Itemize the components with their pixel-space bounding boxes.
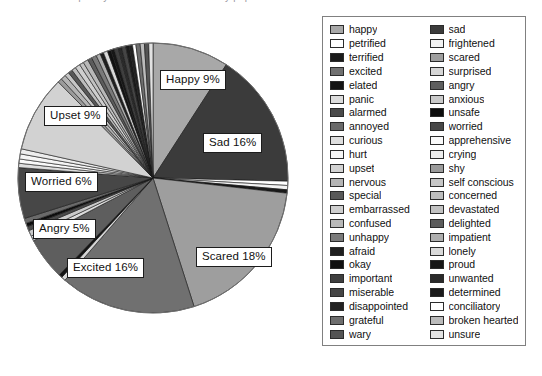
legend-item[interactable]: unhappy (330, 230, 422, 244)
legend-item[interactable]: unsafe (430, 106, 522, 120)
legend-item[interactable]: nervous (330, 175, 422, 189)
legend-item-label: happy (349, 24, 377, 35)
legend-item-label: hurt (349, 149, 367, 160)
legend-swatch (330, 122, 344, 131)
legend-item[interactable]: impatient (430, 230, 522, 244)
legend-swatch (330, 39, 344, 48)
legend-item-label: upset (349, 163, 374, 174)
legend-item[interactable]: okay (330, 258, 422, 272)
legend-item[interactable]: sad (430, 23, 522, 37)
legend-swatch (330, 150, 344, 159)
legend-item[interactable]: concerned (430, 189, 522, 203)
legend-item-label: nervous (349, 177, 386, 188)
pie-slice-label: Sad 16% (203, 133, 262, 153)
legend-swatch (430, 247, 444, 256)
legend-item[interactable]: grateful (330, 313, 422, 327)
legend-item-label: proud (449, 259, 476, 270)
legend-item[interactable]: lonely (430, 244, 522, 258)
legend-item[interactable]: confused (330, 217, 422, 231)
legend-swatch (430, 108, 444, 117)
legend-item[interactable]: apprehensive (430, 134, 522, 148)
legend-item[interactable]: worried (430, 120, 522, 134)
legend-item[interactable]: shy (430, 161, 522, 175)
legend-swatch (430, 136, 444, 145)
legend-swatch (330, 288, 344, 297)
legend-item[interactable]: special (330, 189, 422, 203)
legend-item[interactable]: frightened (430, 37, 522, 51)
legend-swatch (430, 67, 444, 76)
legend-swatch (330, 67, 344, 76)
legend-swatch (330, 302, 344, 311)
legend-item[interactable]: terrified (330, 51, 422, 65)
legend-item[interactable]: determined (430, 286, 522, 300)
legend-item-label: embarrassed (349, 204, 410, 215)
legend-swatch (330, 108, 344, 117)
legend-item[interactable]: delighted (430, 217, 522, 231)
legend-item[interactable]: self conscious (430, 175, 522, 189)
legend-swatch (430, 302, 444, 311)
legend-item-label: important (349, 273, 392, 284)
legend-swatch (330, 233, 344, 242)
legend-swatch (430, 81, 444, 90)
legend-swatch (430, 122, 444, 131)
legend-item[interactable]: upset (330, 161, 422, 175)
legend-item[interactable]: embarrassed (330, 203, 422, 217)
legend-item[interactable]: broken hearted (430, 313, 522, 327)
legend-item[interactable]: conciliatory (430, 300, 522, 314)
legend-item-label: disappointed (349, 301, 408, 312)
legend-swatch (330, 191, 344, 200)
legend-item[interactable]: important (330, 272, 422, 286)
legend-swatch (330, 25, 344, 34)
legend-item[interactable]: scared (430, 51, 522, 65)
legend-item[interactable]: miserable (330, 286, 422, 300)
legend-swatch (330, 136, 344, 145)
legend-item[interactable]: anxious (430, 92, 522, 106)
legend-item-label: unwanted (449, 273, 494, 284)
legend-swatch (330, 330, 344, 339)
legend-item[interactable]: afraid (330, 244, 422, 258)
pie-slice-label: Excited 16% (67, 258, 144, 278)
legend-item-label: annoyed (349, 121, 389, 132)
legend-item[interactable]: surprised (430, 64, 522, 78)
legend-item[interactable]: happy (330, 23, 422, 37)
legend-item[interactable]: annoyed (330, 120, 422, 134)
legend-box: happypetrifiedterrifiedexcitedelatedpani… (322, 16, 526, 346)
legend-item-label: unsafe (449, 107, 480, 118)
legend-item[interactable]: proud (430, 258, 522, 272)
legend-item-label: shy (449, 163, 465, 174)
legend-item-label: wary (349, 329, 371, 340)
legend-item[interactable]: petrified (330, 37, 422, 51)
legend-item-label: angry (449, 80, 475, 91)
legend-item-label: curious (349, 135, 383, 146)
legend-item-label: conciliatory (449, 301, 501, 312)
legend-swatch (330, 53, 344, 62)
legend-item[interactable]: panic (330, 92, 422, 106)
legend-item[interactable]: unsure (430, 327, 522, 341)
legend-item[interactable]: unwanted (430, 272, 522, 286)
legend-item[interactable]: devastated (430, 203, 522, 217)
legend-item[interactable]: alarmed (330, 106, 422, 120)
legend-item-label: unhappy (349, 232, 389, 243)
legend-swatch (430, 260, 444, 269)
legend-swatch (330, 274, 344, 283)
legend-swatch (430, 39, 444, 48)
legend-item[interactable]: hurt (330, 147, 422, 161)
legend-item[interactable]: elated (330, 78, 422, 92)
pie-slice-label: Happy 9% (160, 70, 226, 90)
pie-slice-label: Scared 18% (196, 247, 272, 267)
legend-item-label: concerned (449, 190, 498, 201)
pie-slice-label: Angry 5% (33, 219, 96, 239)
legend-swatch (330, 205, 344, 214)
legend-swatch (430, 25, 444, 34)
legend-item[interactable]: curious (330, 134, 422, 148)
legend-swatch (430, 191, 444, 200)
legend-swatch (330, 178, 344, 187)
legend-swatch (430, 233, 444, 242)
legend-item[interactable]: disappointed (330, 300, 422, 314)
legend-item[interactable]: wary (330, 327, 422, 341)
legend-item-label: terrified (349, 52, 384, 63)
legend-item[interactable]: angry (430, 78, 522, 92)
legend-item[interactable]: excited (330, 64, 422, 78)
legend-swatch (430, 178, 444, 187)
legend-item[interactable]: crying (430, 147, 522, 161)
